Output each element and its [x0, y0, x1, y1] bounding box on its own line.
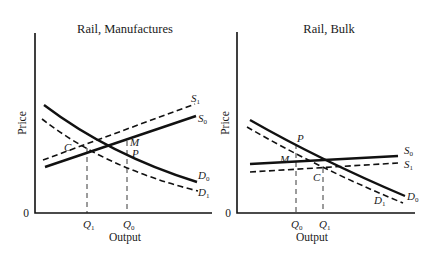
curve-d1: [42, 119, 198, 191]
panel-title: Rail, Bulk: [303, 22, 355, 36]
point-label-m: M: [279, 153, 290, 165]
label-s1: S1: [404, 158, 414, 172]
origin-label: 0: [23, 207, 29, 219]
tick-q0: Q0: [291, 218, 303, 232]
panel-rail-manufactures: Rail, Manufactures 0 Price Output S1 S0 …: [16, 22, 212, 244]
curve-s0: [250, 156, 398, 164]
label-d1: D1: [197, 186, 210, 200]
x-axis-label: Output: [109, 231, 142, 244]
label-d0: D0: [197, 169, 210, 183]
label-s0: S0: [198, 112, 208, 126]
label-s1: S1: [191, 92, 201, 106]
point-label-c: C: [313, 171, 321, 183]
panel-rail-bulk: Rail, Bulk 0 Price Output S0 S1 D0 D1 P …: [219, 22, 419, 244]
tick-q1: Q1: [83, 218, 95, 232]
curve-d1: [247, 127, 403, 203]
tick-q1: Q1: [319, 218, 331, 232]
point-label-p: P: [131, 147, 139, 159]
point-label-c: C: [64, 141, 72, 153]
y-axis-label: Price: [16, 111, 28, 135]
panel-title: Rail, Manufactures: [77, 22, 173, 36]
label-d1: D1: [373, 194, 386, 208]
tick-q0: Q0: [123, 218, 135, 232]
y-axis-label: Price: [219, 111, 231, 135]
x-axis-label: Output: [296, 231, 329, 244]
label-s0: S0: [404, 144, 414, 158]
point-label-p: P: [296, 132, 304, 144]
axes: [35, 33, 212, 213]
label-d0: D0: [406, 190, 419, 204]
diagram-canvas: Rail, Manufactures 0 Price Output S1 S0 …: [0, 0, 437, 262]
axes: [237, 32, 415, 213]
origin-label: 0: [225, 207, 231, 219]
